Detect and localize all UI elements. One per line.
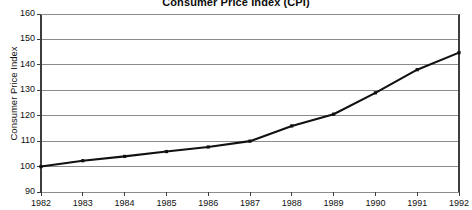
- data-point-marker: [81, 159, 84, 162]
- data-point-marker: [207, 145, 210, 148]
- gridlines: [41, 39, 459, 166]
- plot-area: [0, 0, 472, 210]
- data-series-line: [41, 53, 459, 167]
- data-point-markers: [39, 51, 460, 168]
- data-point-marker: [290, 124, 293, 127]
- data-point-marker: [165, 150, 168, 153]
- data-point-marker: [39, 165, 42, 168]
- x-axis-ticks: [41, 192, 459, 196]
- cpi-line-chart: Consumer Price Index (CPI) Consumer Pric…: [0, 0, 472, 210]
- data-point-marker: [374, 91, 377, 94]
- data-point-marker: [123, 155, 126, 158]
- plot-border: [41, 14, 459, 192]
- data-point-marker: [457, 51, 460, 54]
- data-point-marker: [248, 140, 251, 143]
- data-point-marker: [416, 68, 419, 71]
- data-point-marker: [332, 113, 335, 116]
- data-line: [41, 53, 459, 167]
